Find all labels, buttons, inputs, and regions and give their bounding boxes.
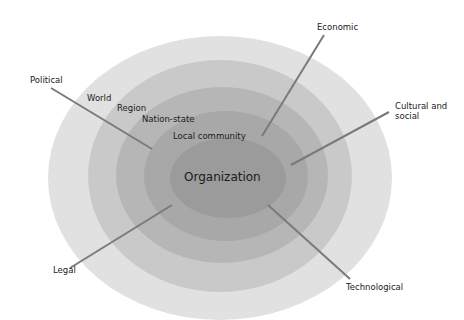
factor-label-legal: Legal xyxy=(53,265,76,275)
factor-label-political: Political xyxy=(30,75,63,85)
center-label-organization: Organization xyxy=(184,170,261,184)
level-label-world: World xyxy=(87,93,111,103)
level-label-nation-state: Nation-state xyxy=(142,114,194,124)
level-label-local-community: Local community xyxy=(173,131,246,141)
factor-label-cultural-social: Cultural and social xyxy=(395,101,447,121)
factor-label-economic: Economic xyxy=(317,22,358,32)
factor-label-technological: Technological xyxy=(346,282,403,292)
level-label-region: Region xyxy=(117,103,146,113)
